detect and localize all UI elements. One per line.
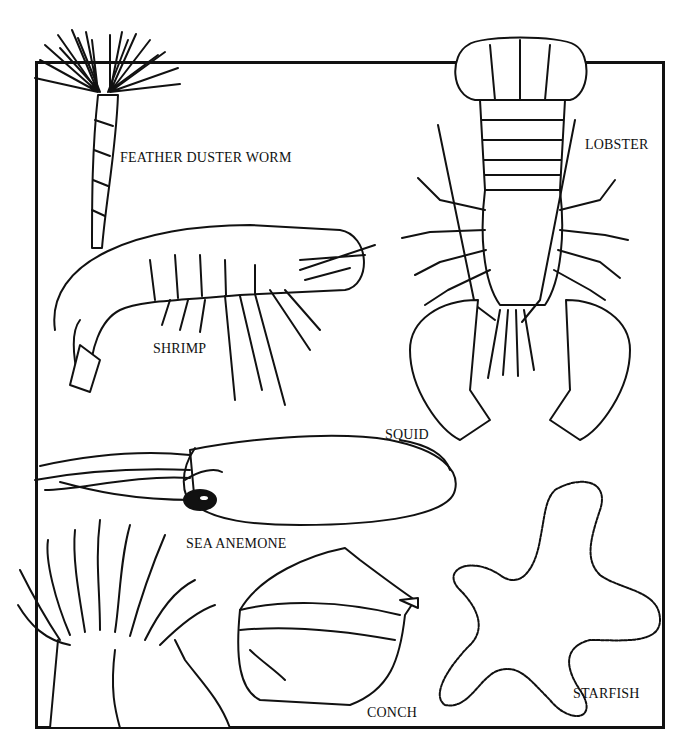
label-feather-duster-worm: FEATHER DUSTER WORM — [120, 150, 292, 166]
label-starfish: STARFISH — [573, 686, 640, 702]
sea-creatures-illustration — [0, 0, 684, 756]
label-squid: SQUID — [385, 427, 429, 443]
squid-drawing — [35, 436, 456, 525]
label-lobster: LOBSTER — [585, 137, 649, 153]
feather-duster-crown — [35, 30, 180, 92]
conch-drawing — [238, 548, 418, 705]
label-conch: CONCH — [367, 705, 417, 721]
lobster-drawing — [402, 38, 630, 441]
starfish-drawing — [440, 482, 660, 716]
label-shrimp: SHRIMP — [153, 341, 206, 357]
feather-duster-worm-drawing — [35, 30, 180, 248]
shrimp-drawing — [54, 225, 375, 405]
label-sea-anemone: SEA ANEMONE — [186, 536, 287, 552]
